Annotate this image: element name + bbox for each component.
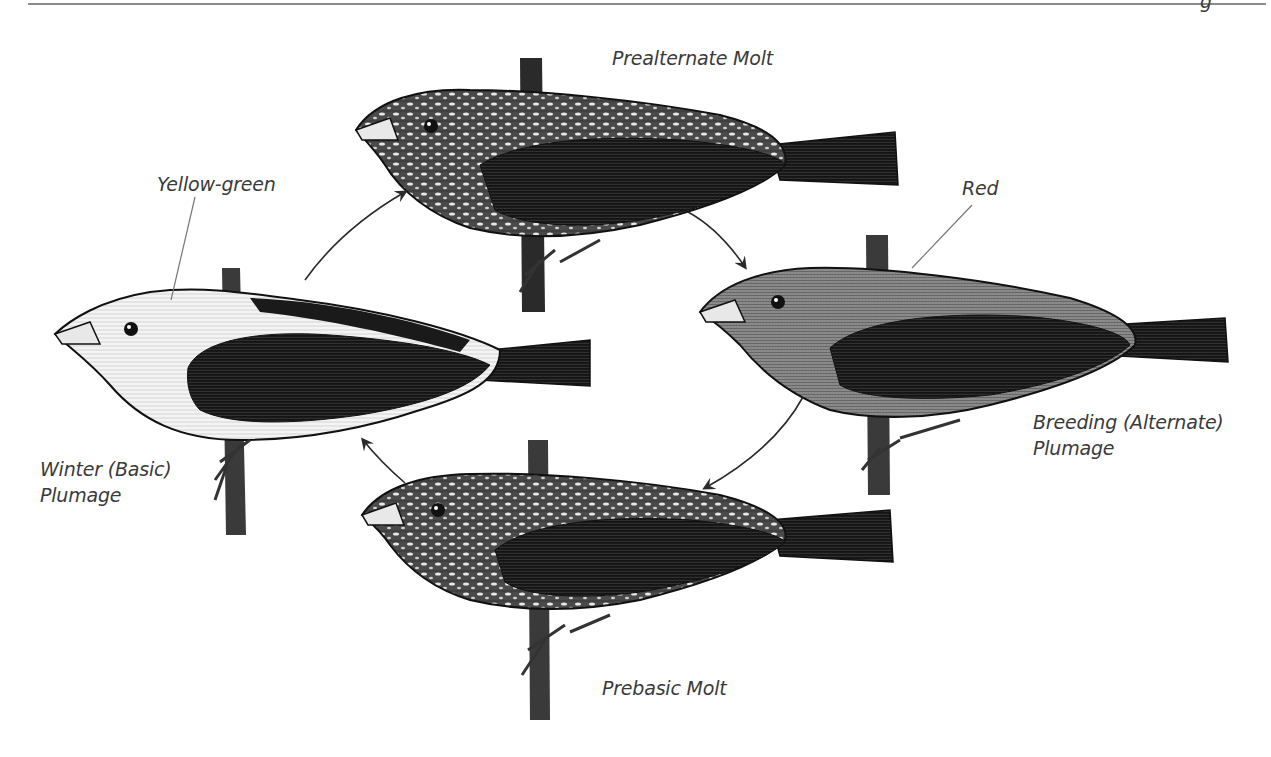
yellow-green-leader-line (171, 197, 195, 300)
molt-cycle-diagram (0, 0, 1271, 757)
label-winter-line2: Plumage (40, 483, 121, 507)
arrow-prebasic-to-winter (363, 440, 405, 483)
arrow-breeding-to-prebasic (705, 397, 803, 488)
label-red: Red (962, 176, 998, 200)
label-prebasic-molt: Prebasic Molt (602, 676, 726, 700)
label-yellow-green: Yellow-green (157, 172, 276, 196)
label-prealternate-molt: Prealternate Molt (612, 46, 773, 70)
label-breeding-line2: Plumage (1033, 436, 1114, 460)
bird-breeding-alternate-plumage (700, 205, 1228, 495)
red-leader-line (912, 205, 972, 268)
arrow-prealternate-to-breeding (688, 212, 745, 267)
arrow-winter-to-prealternate (305, 192, 405, 280)
label-winter-line1: Winter (Basic) (40, 457, 171, 481)
label-breeding-line1: Breeding (Alternate) (1033, 410, 1224, 434)
